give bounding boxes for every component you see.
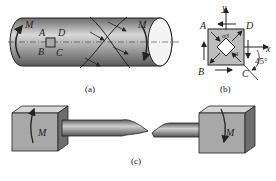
figure-b-element: y x A D B C σ3 σ1 45° (b)	[198, 2, 271, 94]
point-b-b: B	[198, 66, 204, 77]
moment-label-left-c: M	[37, 127, 47, 138]
caption-b: (b)	[220, 84, 231, 94]
figure-a-cylinder: M M A D B C (a)	[8, 17, 180, 94]
angle-label: 45°	[255, 56, 268, 66]
point-d-b: D	[245, 20, 254, 31]
axis-x-label: x	[265, 43, 271, 54]
moment-label-left: M	[24, 19, 34, 30]
point-b: B	[38, 46, 44, 57]
axis-y-label: y	[221, 2, 227, 13]
point-c-b: C	[242, 68, 249, 79]
moment-label-right-c: M	[225, 127, 235, 138]
caption-c: (c)	[131, 156, 141, 166]
point-a-b: A	[199, 20, 207, 31]
sigma1-label: σ1	[232, 50, 239, 58]
point-a: A	[38, 27, 46, 38]
point-d: D	[57, 27, 66, 38]
sigma3-label: σ3	[222, 32, 229, 40]
torsion-diagram: M M A D B C (a) y x A D B C σ3 σ1 45° (b…	[0, 0, 276, 181]
point-c: C	[56, 47, 63, 58]
moment-label-right: M	[137, 19, 147, 30]
caption-a: (a)	[85, 84, 95, 94]
figure-c-specimen: M M (c)	[12, 106, 255, 166]
